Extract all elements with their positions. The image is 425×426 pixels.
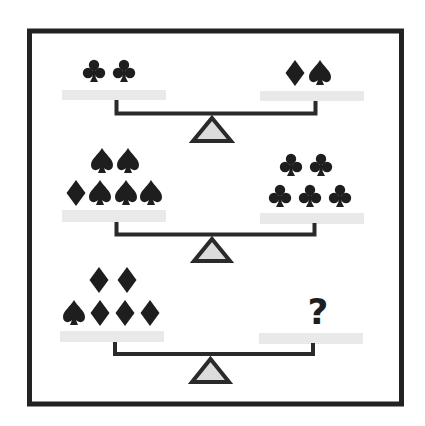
fulcrum-triangle [193,118,231,141]
right-pan-symbols [286,60,332,86]
diamond-icon [91,300,110,326]
scale-2 [62,148,364,261]
spade-icon [115,180,137,205]
diamond-icon [116,300,135,326]
diamond-icon [67,180,86,206]
spade-icon [89,180,111,205]
scale-3: ? [60,267,363,382]
club-icon [113,60,135,82]
right-pan [260,91,364,101]
right-pan-unknown: ? [308,291,329,332]
spade-icon [140,180,162,205]
right-pan [259,333,363,344]
left-pan [62,210,166,222]
left-pan-symbols [63,267,160,326]
spade-icon [63,300,85,325]
question-mark: ? [308,291,329,332]
diamond-icon [141,300,160,326]
scale-1 [62,60,364,141]
club-icon [299,185,321,207]
fulcrum-triangle [194,239,230,261]
balance-beam [117,100,316,114]
diamond-icon [118,267,137,293]
fulcrum-triangle [192,359,229,382]
left-pan [62,90,166,100]
diamond-icon [90,267,109,293]
right-pan [260,213,364,224]
club-icon [280,154,302,176]
club-icon [329,185,351,207]
spade-icon [117,148,139,173]
spade-icon [309,60,331,85]
club-icon [269,185,291,207]
balance-puzzle: ? [0,0,425,426]
left-pan-symbols [83,60,135,82]
club-icon [310,154,332,176]
left-pan [60,331,164,342]
left-pan-symbols [67,148,163,206]
diamond-icon [286,60,305,86]
spade-icon [91,148,113,173]
right-pan-symbols [269,154,351,207]
club-icon [83,60,105,82]
